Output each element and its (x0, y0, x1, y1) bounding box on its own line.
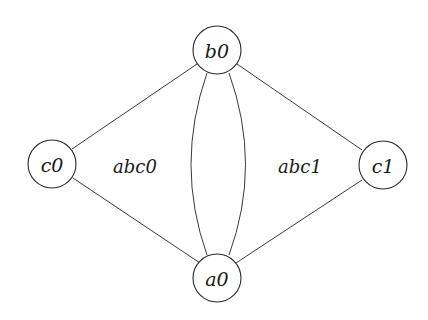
edge-c1-a0 (236, 180, 362, 263)
node-c1: c1 (359, 141, 407, 189)
node-label-c0: c0 (41, 154, 64, 176)
node-label-b0: b0 (205, 40, 229, 62)
node-c0: c0 (28, 140, 76, 188)
node-label-c1: c1 (372, 155, 395, 177)
edge-c0-a0 (73, 178, 200, 263)
edge-b0-a0-left (191, 73, 207, 255)
face-label-abc1: abc1 (278, 156, 322, 177)
node-b0: b0 (193, 26, 241, 74)
face-label-abc0: abc0 (113, 156, 157, 177)
node-label-a0: a0 (205, 268, 228, 290)
edge-b0-c0 (72, 64, 197, 149)
graph-diagram: abc0 abc1 b0 c0 c1 a0 (0, 0, 428, 320)
edge-b0-c1 (237, 64, 362, 150)
edge-b0-a0-right (229, 73, 246, 255)
node-a0: a0 (193, 254, 241, 302)
